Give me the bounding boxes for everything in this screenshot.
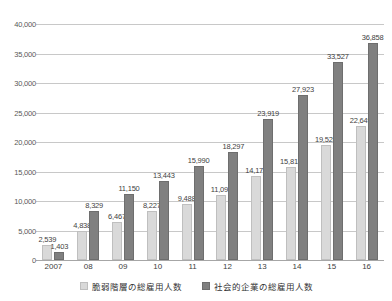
bar-vulnerable-class[interactable] (321, 145, 331, 260)
bar-value-label: 11,150 (118, 184, 139, 193)
legend-item[interactable]: 社会的企業の総雇用人数 (202, 280, 313, 292)
bar-value-label: 36,858 (362, 33, 384, 42)
bar-group: 6,46711,150 (106, 24, 141, 260)
y-axis-tick-label: 30,000 (2, 79, 36, 88)
axis-line-zero (36, 260, 384, 261)
bar-vulnerable-class[interactable] (286, 167, 296, 260)
legend-item[interactable]: 脆弱階層の総雇用人数 (80, 280, 182, 292)
bar-group: 11,09418,297 (210, 24, 245, 260)
legend-swatch-icon (80, 282, 88, 290)
bar-value-label: 8,329 (85, 201, 103, 210)
bar-value-label: 13,443 (153, 171, 175, 180)
bar-vulnerable-class[interactable] (182, 204, 192, 260)
bar-group: 19,52833,527 (314, 24, 349, 260)
y-axis-tick-label: 5,000 (2, 226, 36, 235)
plot-area: 2,5391,4034,8388,3296,46711,1508,22713,4… (36, 24, 384, 260)
bar-group: 15,81527,923 (280, 24, 315, 260)
legend-swatch-icon (202, 282, 210, 290)
bar-value-label: 33,527 (327, 52, 349, 61)
bar-social-enterprise[interactable] (263, 119, 273, 260)
bar-social-enterprise[interactable] (368, 43, 378, 260)
legend-label: 脆弱階層の総雇用人数 (92, 280, 182, 292)
bar-vulnerable-class[interactable] (77, 231, 87, 260)
bar-group: 22,64936,858 (349, 24, 384, 260)
y-axis-tick-label: 40,000 (2, 20, 36, 29)
y-axis-tick-label: 15,000 (2, 167, 36, 176)
x-axis-tick-label: 12 (223, 262, 232, 271)
bar-value-label: 1,403 (51, 242, 69, 251)
bar-value-label: 18,297 (223, 142, 245, 151)
x-axis-tick-label: 2007 (44, 262, 62, 271)
bar-vulnerable-class[interactable] (216, 195, 226, 260)
y-axis-tick-label: 35,000 (2, 49, 36, 58)
bar-social-enterprise[interactable] (228, 152, 238, 260)
bar-social-enterprise[interactable] (298, 95, 308, 260)
bar-vulnerable-class[interactable] (251, 176, 261, 260)
bar-social-enterprise[interactable] (124, 194, 134, 260)
x-axis-tick-label: 10 (153, 262, 162, 271)
x-axis-tick-label: 15 (327, 262, 336, 271)
bar-group: 4,8388,329 (71, 24, 106, 260)
bar-social-enterprise[interactable] (159, 181, 169, 260)
bar-group: 2,5391,403 (36, 24, 71, 260)
y-axis-tick-label: 0 (2, 256, 36, 265)
bar-value-label: 15,990 (188, 156, 210, 165)
y-axis-tick-label: 20,000 (2, 138, 36, 147)
y-axis-tick-label: 25,000 (2, 108, 36, 117)
bar-social-enterprise[interactable] (333, 62, 343, 260)
bar-vulnerable-class[interactable] (356, 126, 366, 260)
x-axis-tick-label: 09 (119, 262, 128, 271)
bar-social-enterprise[interactable] (194, 166, 204, 260)
chart-legend: 脆弱階層の総雇用人数社会的企業の総雇用人数 (0, 280, 392, 292)
bar-social-enterprise[interactable] (89, 211, 99, 260)
y-axis-tick-label: 10,000 (2, 197, 36, 206)
bar-group: 14,17823,919 (245, 24, 280, 260)
x-axis-tick-label: 08 (84, 262, 93, 271)
bar-value-label: 27,923 (292, 85, 314, 94)
x-axis-tick-label: 11 (188, 262, 196, 271)
bar-vulnerable-class[interactable] (112, 222, 122, 260)
legend-label: 社会的企業の総雇用人数 (214, 280, 313, 292)
bar-social-enterprise[interactable] (54, 252, 64, 260)
x-axis-tick-label: 13 (258, 262, 267, 271)
x-axis: 2007080910111213141516 (36, 262, 384, 276)
x-axis-tick-label: 14 (293, 262, 302, 271)
bar-chart: 2,5391,4034,8388,3296,46711,1508,22713,4… (0, 0, 392, 301)
bar-value-label: 23,919 (257, 109, 279, 118)
bar-group: 9,48815,990 (175, 24, 210, 260)
bar-vulnerable-class[interactable] (147, 211, 157, 260)
x-axis-tick-label: 16 (362, 262, 371, 271)
bar-group: 8,22713,443 (140, 24, 175, 260)
